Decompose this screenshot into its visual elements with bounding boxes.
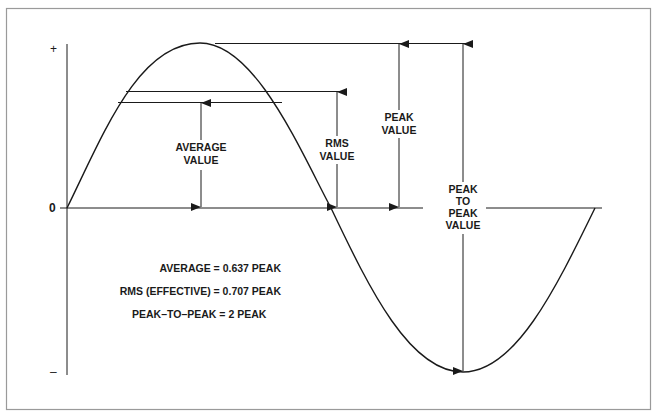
p2p-label-line4: VALUE [446, 219, 481, 231]
diagram-frame [7, 9, 651, 410]
formula-average: AVERAGE = 0.637 PEAK [160, 262, 282, 274]
p2p-label-line2: TO [456, 195, 470, 207]
peak-label-line1: PEAK [384, 111, 414, 123]
zero-label: 0 [49, 201, 56, 215]
minus-label: – [50, 365, 57, 379]
average-label-line1: AVERAGE [175, 141, 226, 153]
p2p-label-line1: PEAK [448, 183, 478, 195]
average-label-line2: VALUE [184, 154, 219, 166]
p2p-label-line3: PEAK [448, 207, 478, 219]
rms-label-line1: RMS [325, 137, 348, 149]
formula-peak-to-peak: PEAK–TO–PEAK = 2 PEAK [132, 308, 267, 320]
ac-waveform-diagram: + 0 – AVERAGE VALUE RMS VALUE PEAK VALUE… [0, 0, 654, 416]
rms-label-line2: VALUE [320, 150, 355, 162]
peak-label-line2: VALUE [382, 124, 417, 136]
plus-label: + [50, 42, 57, 56]
formula-rms: RMS (EFFECTIVE) = 0.707 PEAK [120, 285, 282, 297]
